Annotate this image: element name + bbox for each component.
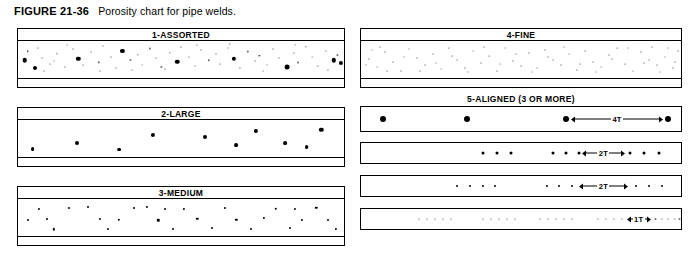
porosity-dot <box>409 49 410 50</box>
porosity-dot <box>42 57 43 58</box>
porosity-dot <box>87 206 89 208</box>
porosity-dot <box>420 71 421 72</box>
porosity-dot <box>33 66 37 70</box>
porosity-dot <box>621 218 622 219</box>
porosity-dot <box>544 49 545 50</box>
porosity-dot <box>194 66 195 67</box>
porosity-dot <box>433 53 434 54</box>
porosity-dot <box>372 49 373 50</box>
porosity-dot <box>164 208 166 210</box>
porosity-dot <box>317 66 318 67</box>
porosity-dot <box>564 46 565 47</box>
porosity-dot <box>643 152 646 155</box>
porosity-dot <box>169 52 170 53</box>
porosity-dot <box>305 145 309 149</box>
porosity-dot <box>216 54 217 55</box>
porosity-dot <box>548 56 549 57</box>
porosity-dot <box>377 66 378 67</box>
dimension-label: 2T <box>597 149 609 158</box>
panel-aligned-title: 5-ALIGNED (3 OR MORE) <box>360 94 682 105</box>
porosity-dot <box>211 227 213 229</box>
porosity-dot <box>107 228 109 230</box>
aligned-row: 2T <box>360 175 682 197</box>
aligned-row: 1T <box>360 208 682 230</box>
porosity-dot <box>67 207 69 209</box>
porosity-dot <box>608 55 609 56</box>
porosity-dot <box>255 60 256 61</box>
porosity-dot <box>267 65 268 66</box>
porosity-dot <box>563 116 569 122</box>
porosity-dot <box>181 46 182 47</box>
porosity-dot <box>161 66 162 67</box>
porosity-dot <box>118 219 120 221</box>
porosity-dot <box>72 49 73 50</box>
porosity-dot <box>102 46 103 47</box>
porosity-dot <box>577 152 580 155</box>
dimension-line <box>583 186 598 187</box>
panel-assorted-field <box>17 41 345 79</box>
porosity-dot <box>450 218 451 219</box>
aligned-row: 2T <box>360 142 682 164</box>
porosity-dot <box>532 72 533 73</box>
porosity-dot <box>315 207 317 209</box>
porosity-dot <box>674 218 675 219</box>
porosity-dot <box>434 218 435 219</box>
porosity-dot <box>401 70 402 71</box>
porosity-dot <box>418 218 419 219</box>
porosity-dot <box>605 218 606 219</box>
porosity-dot <box>497 70 498 71</box>
porosity-dot <box>529 52 530 53</box>
porosity-dot <box>558 185 560 187</box>
dimension-label: 2T <box>597 182 609 191</box>
porosity-dot <box>229 43 230 44</box>
porosity-dot <box>38 47 39 48</box>
porosity-dot <box>489 55 490 56</box>
porosity-dot <box>456 185 458 187</box>
dimension-line <box>623 119 659 120</box>
panel-medium-header: 3-MEDIUM <box>17 186 345 199</box>
porosity-dot <box>572 218 573 219</box>
porosity-dot <box>306 46 307 47</box>
porosity-dot <box>480 63 481 64</box>
porosity-dot <box>83 65 84 66</box>
porosity-dot <box>585 50 586 51</box>
porosity-dot <box>155 58 156 59</box>
porosity-dot <box>220 63 221 64</box>
porosity-dot <box>76 57 80 61</box>
dimension-line <box>586 153 598 154</box>
panel-fine: 4-FINE <box>360 28 682 88</box>
porosity-dot <box>386 71 387 72</box>
porosity-dot <box>484 46 485 47</box>
porosity-dot <box>228 47 229 48</box>
porosity-dot <box>38 208 40 210</box>
porosity-dot <box>137 54 138 55</box>
porosity-dot <box>200 49 201 50</box>
panel-medium-strip <box>17 237 345 246</box>
porosity-dot <box>635 185 637 187</box>
porosity-dot <box>625 63 626 64</box>
panel-large-strip <box>17 158 345 167</box>
porosity-dot <box>312 57 313 58</box>
porosity-dot <box>540 218 541 219</box>
porosity-dot <box>436 63 437 64</box>
porosity-dot <box>141 64 142 65</box>
porosity-dot <box>247 51 248 52</box>
porosity-dot <box>564 152 567 155</box>
porosity-dot <box>380 116 386 122</box>
porosity-dot <box>628 152 631 155</box>
porosity-dot <box>272 49 273 50</box>
porosity-dot <box>521 66 522 67</box>
porosity-dot <box>674 61 675 62</box>
panel-fine-header: 4-FINE <box>360 28 682 41</box>
porosity-dot <box>576 69 577 70</box>
porosity-dot <box>644 63 645 64</box>
porosity-dot <box>441 69 442 70</box>
figure-caption: FIGURE 21-36Porosity chart for pipe weld… <box>14 5 236 17</box>
porosity-dot <box>482 185 484 187</box>
porosity-dot <box>668 218 669 219</box>
porosity-dot <box>117 148 121 152</box>
porosity-dot <box>197 44 198 45</box>
porosity-dot <box>468 72 469 73</box>
porosity-dot <box>490 218 491 219</box>
porosity-dot <box>99 71 100 72</box>
